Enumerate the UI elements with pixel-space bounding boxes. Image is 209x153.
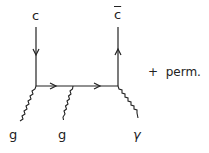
quark-label: c (32, 9, 39, 22)
gluon-line-middle (63, 86, 73, 120)
gluon-left-label: g (9, 128, 17, 141)
photon-line (118, 86, 138, 118)
photon-label: γ (133, 128, 141, 141)
antiquark-label: c (114, 8, 121, 21)
gluon-middle-label: g (58, 128, 66, 141)
permutation-annotation: + perm. (148, 66, 201, 78)
gluon-line-left (20, 86, 36, 121)
